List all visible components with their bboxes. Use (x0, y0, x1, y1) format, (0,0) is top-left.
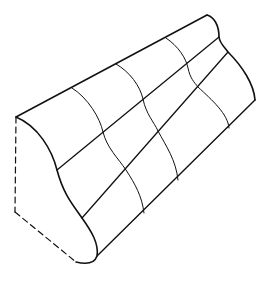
front-profile-curve (16, 117, 97, 263)
cross-section-curve (116, 64, 178, 180)
hidden-edge-vertical (15, 117, 16, 212)
bottom-edge-line (97, 100, 255, 256)
top-edge-line (16, 15, 207, 117)
hidden-edge-bottom (15, 212, 76, 262)
back-profile-curve (207, 15, 255, 100)
grid-line-upper (57, 37, 219, 170)
surface-diagram (0, 0, 272, 281)
cross-section-curve (166, 38, 229, 128)
